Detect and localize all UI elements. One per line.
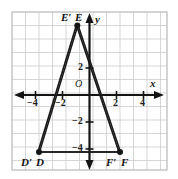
x-tick-label-2: 2 [113,98,118,108]
point-label-d: D [36,157,44,168]
point-label-e: E [75,12,82,23]
y-axis-top-arrow [86,13,94,23]
x-axis-label: x [150,78,156,89]
x-axis-right-arrow [154,91,164,99]
y-axis-bottom-arrow [86,160,94,170]
y-tick-label--4: −4 [72,143,83,153]
y-axis-label: y [95,14,100,25]
vertex-point-f [117,149,123,155]
origin-label: O [75,79,82,89]
point-label-d-prime: D′ [21,157,32,168]
x-tick-label--2: −2 [55,98,66,108]
coordinate-plane-figure: x y O −4 −2 2 4 2 −2 −4 E′ E D′ D F′ F [0,0,178,179]
point-label-e-prime: E′ [61,12,71,23]
graph-canvas [0,0,178,179]
vertex-point-d [36,149,42,155]
y-tick-label-2: 2 [78,62,83,72]
point-label-f: F [121,157,128,168]
vertex-point-e [74,23,80,29]
y-tick-label--2: −2 [72,116,83,126]
x-tick-label--4: −4 [27,98,38,108]
point-label-f-prime: F′ [106,157,116,168]
x-tick-label-4: 4 [140,98,145,108]
x-axis-left-arrow [14,91,24,99]
y-axis [86,13,94,170]
